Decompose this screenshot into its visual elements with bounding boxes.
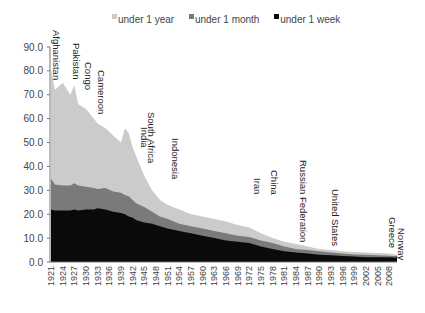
x-tick-label: 1972 [244,266,254,286]
x-tick-label: 1936 [104,266,114,286]
annotation-iran: Iran [252,178,263,194]
y-tick-label: 60.0 [24,113,44,124]
x-tick-label: 1948 [151,266,161,286]
annotation-cameroon: Cameroon [96,70,107,114]
x-axis-ticks: 1921192419271930193319361939194219451948… [46,266,394,286]
x-tick-label: 1933 [93,266,103,286]
x-tick-label: 1954 [174,266,184,286]
x-tick-label: 1942 [128,266,138,286]
y-tick-label: 50.0 [24,137,44,148]
x-tick-label: 1930 [81,266,91,286]
x-tick-label: 1966 [221,266,231,286]
x-tick-label: 2005 [373,266,383,286]
annotation-congo: Congo [83,62,94,90]
x-tick-label: 1969 [233,266,243,286]
y-tick-label: 0.0 [29,257,43,268]
annotation-afghanistan: Afghanistan [51,30,62,80]
x-tick-label: 1999 [349,266,359,286]
x-tick-label: 1993 [326,266,336,286]
y-tick-label: 20.0 [24,209,44,220]
y-tick-label: 90.0 [24,42,44,53]
x-tick-label: 1981 [279,266,289,286]
x-tick-label: 1978 [268,266,278,286]
x-tick-label: 1963 [209,266,219,286]
x-tick-label: 2002 [361,266,371,286]
x-tick-label: 1996 [338,266,348,286]
x-tick-label: 1939 [116,266,126,286]
x-tick-label: 1921 [46,266,56,286]
annotation-pakistan: Pakistan [71,43,82,79]
stacked-area-chart: 0.010.020.030.040.050.060.070.080.090.0 … [0,0,425,313]
x-tick-label: 1960 [198,266,208,286]
x-tick-label: 1957 [186,266,196,286]
y-axis-ticks: 0.010.020.030.040.050.060.070.080.090.0 [24,42,50,268]
x-tick-label: 1987 [303,266,313,286]
x-tick-label: 1951 [163,266,173,286]
annotation-china: China [269,170,280,196]
x-tick-label: 1924 [58,266,68,286]
x-tick-label: 1927 [69,266,79,286]
x-tick-label: 1945 [139,266,149,286]
annotation-russian-federation: Russian Federation [298,160,309,242]
annotation-south-africa: South Africa [146,112,157,164]
y-tick-label: 80.0 [24,65,44,76]
annotation-united-states: United States [330,189,341,246]
y-tick-label: 30.0 [24,185,44,196]
x-tick-label: 1984 [291,266,301,286]
x-tick-label: 1975 [256,266,266,286]
annotation-indonesia: Indonesia [170,138,181,180]
y-tick-label: 70.0 [24,89,44,100]
y-tick-label: 10.0 [24,233,44,244]
annotation-norway: Norway [396,228,407,260]
x-tick-label: 1990 [314,266,324,286]
y-tick-label: 40.0 [24,161,44,172]
x-tick-label: 2008 [384,266,394,286]
